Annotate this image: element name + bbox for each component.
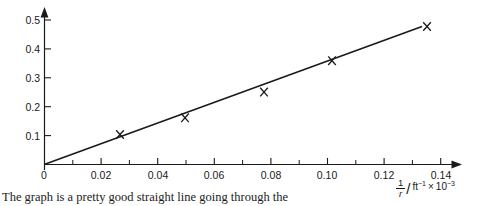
x-axis-title: 1 r / ft−1×10−3	[396, 179, 455, 199]
y-tick-label: 0.2	[14, 102, 40, 113]
x-axis-arrowhead	[452, 161, 463, 169]
y-tick-label: 0.1	[14, 131, 40, 142]
x-tick-label: 0.04	[148, 170, 168, 181]
x-axis-scale-exponent: −3	[447, 180, 455, 187]
figure-caption: The graph is a pretty good straight line…	[2, 190, 302, 205]
x-tick-label: 0.08	[261, 170, 281, 181]
x-axis-minor-ticks	[73, 160, 413, 165]
best-fit-line	[45, 27, 422, 165]
data-marker	[181, 114, 189, 123]
x-axis-scale-base: 10	[436, 181, 447, 192]
x-tick-label: 0.02	[91, 170, 111, 181]
x-axis-title-fraction: 1 r	[396, 178, 405, 198]
x-axis-unit-exponent: −1	[418, 180, 426, 187]
x-axis-title-numerator: 1	[396, 178, 405, 189]
axis-origin-label: 0	[41, 170, 47, 181]
plot-canvas	[0, 0, 480, 206]
data-marker	[423, 22, 431, 31]
x-axis-major-ticks	[101, 158, 441, 165]
y-tick-label: 0.4	[14, 44, 40, 55]
x-axis-times-symbol: ×	[426, 181, 436, 192]
data-marker	[260, 88, 268, 97]
y-tick-label: 0.5	[14, 15, 40, 26]
x-axis-title-unit: ft−1×10−3	[411, 182, 455, 192]
x-axis-title-denominator: r	[397, 189, 404, 199]
y-axis-arrowhead	[41, 7, 49, 18]
x-tick-label: 0.06	[204, 170, 224, 181]
x-tick-label: 0.10	[317, 170, 337, 181]
y-tick-label: 0.3	[14, 73, 40, 84]
figure-container: tan θ	[0, 0, 480, 206]
y-axis-ticks	[45, 20, 52, 136]
x-tick-label: 0.12	[374, 170, 394, 181]
